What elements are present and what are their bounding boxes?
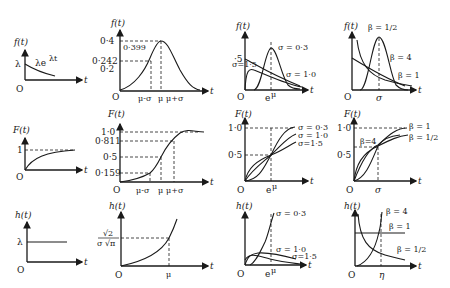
mu-plus-sigma-label: μ+σ [166,186,184,195]
mu-label: μ [166,270,171,279]
e-mu-label: e [266,185,271,195]
t-label: t [418,85,422,95]
sigma-15-label: σ=1·5 [292,252,317,261]
lognormal-hazard-panel: h(t) t O e μ σ = 0·3 σ = 1·0 σ=1·5 [236,201,317,279]
normal-cdf-curve [120,130,204,182]
t-label: t [310,176,314,186]
weibull-hazard-panel: h(t) t O η β = 4 β = 1 β = 1/2 [344,201,426,280]
sigma-15-label: σ=1·5 [232,60,257,69]
beta-4-label: β = 4 [390,53,412,62]
beta-4-curve [360,37,408,90]
beta-4-label: β = 4 [386,207,408,216]
exp-pdf-panel: f(t) t O λ λe λt [13,37,88,94]
mu-label: μ [158,94,163,103]
f-label: f(t) [235,21,250,31]
lambda-label: λ [15,59,21,69]
weib-eta-label: η [379,270,385,280]
sigma-03-label: σ = 0·3 [276,209,306,218]
e-mu-sup-label: μ [271,266,276,275]
origin-label: O [17,265,24,275]
normal-pdf-panel: f(t) t O 0·4 0·399 0·242 0·2 μ-σ μ μ+σ [92,18,214,103]
y-label: f(t) [13,37,28,47]
t-label: t [418,176,422,186]
mu-plus-sigma-label: μ+σ [166,94,184,103]
weib-F10-label: 1·0 [337,123,352,133]
beta-1-label: β = 1 [409,122,431,131]
h-label: h(t) [344,201,361,211]
origin-label: O [115,270,122,280]
t-label: t [84,165,88,175]
t-label: t [310,85,314,95]
F-label: F(t) [234,109,252,119]
F-label: F(t) [343,109,361,119]
lognormal-cdf-panel: F(t) t O 1·0 0·5 e μ σ = 0·3 σ = 1·0 σ=1… [228,109,328,195]
origin-label: O [344,92,351,102]
exp-pdf-label: λe [35,58,46,68]
beta-4-hazard [357,212,382,266]
f-label: f(t) [110,18,125,28]
normal-cdf-panel: F(t) t O 1·0 0·811 0·5 0·159 μ-σ μ μ+σ [95,109,214,195]
origin-label: O [112,92,119,102]
mu-minus-sigma-label: μ-σ [138,94,152,103]
sigma-15-cdf [245,142,296,181]
weib-sigma-label: σ [375,185,382,195]
exp-cdf-panel: F(t) t O 1 [12,125,88,182]
norm-0159-label: 0·159 [95,168,121,178]
F-label: F(t) [107,109,125,119]
sigma-10-label: σ = 1·0 [286,70,316,79]
sigma-03-label: σ = 0·3 [278,43,308,52]
mu-label: μ [158,186,163,195]
logn-F10-label: 1·0 [228,123,243,133]
h-label: h(t) [15,210,32,220]
beta-4-F-label: β=4 [360,137,376,146]
norm-h-den-label: σ √π [97,239,115,248]
x-label: t [84,75,88,85]
beta-1-label: β = 1 [389,222,411,231]
origin-label: O [237,92,244,102]
norm-0399-label: 0·399 [123,43,146,52]
t-label: t [418,261,422,271]
e-mu-label: e [265,93,270,103]
t-label: t [210,86,214,96]
beta-half-label: β = 1/2 [397,245,426,254]
reliability-distributions-figure: f(t) t O λ λe λt f(t) t O 0·4 0·399 0·24… [0,0,450,288]
sigma-03-cdf [245,127,295,181]
e-mu-label: e [265,269,270,279]
origin-label: O [346,185,353,195]
origin-label: O [348,270,355,280]
t-label: t [84,257,88,267]
beta-half-label: β = 1/2 [409,133,438,142]
beta-1-cdf [354,128,407,181]
origin-label: O [16,84,23,94]
beta-half-label: β = 1/2 [368,23,397,32]
origin-label: O [113,185,120,195]
sigma-10-cdf [245,134,296,181]
lognormal-pdf-panel: f(t) t O ·5 e μ σ = 0·3 σ = 1·0 σ=1·5 [232,21,316,103]
sigma-15-label: σ=1·5 [298,139,323,148]
weibull-cdf-panel: F(t) t O 1·0 0·5 σ β = 1 β = 1/2 β=4 [337,109,438,195]
exp-cdf-curve [25,150,75,170]
weib-F05-label: 0·5 [337,150,352,160]
exp-pdf-sup: λt [49,54,58,63]
h-label: h(t) [236,201,253,211]
origin-label: O [237,185,244,195]
mu-minus-sigma-label: μ-σ [136,186,150,195]
t-label: t [210,261,214,271]
normal-hazard-panel: h(t) t O √2 σ √π μ [97,201,214,280]
beta-1-label: β = 1 [398,71,420,80]
t-label: t [210,177,214,187]
weib-sigma-label: σ [376,93,383,103]
weibull-pdf-panel: f(t) t O σ β = 1/2 β = 4 β = 1 [343,21,422,103]
one-label: 1 [17,145,23,155]
norm-02-label: 0·2 [100,64,114,74]
lambda-label: λ [17,237,23,247]
norm-05-label: 0·5 [103,152,118,162]
e-mu-sup-label: μ [272,182,277,191]
f-label: f(t) [343,21,358,31]
origin-label: O [237,269,244,279]
e-mu-sup-label: μ [271,90,276,99]
origin-label: O [16,172,23,182]
norm-04-label: 0·4 [100,36,115,46]
norm-0811-label: 0·811 [95,136,121,146]
h-label: h(t) [109,201,126,211]
